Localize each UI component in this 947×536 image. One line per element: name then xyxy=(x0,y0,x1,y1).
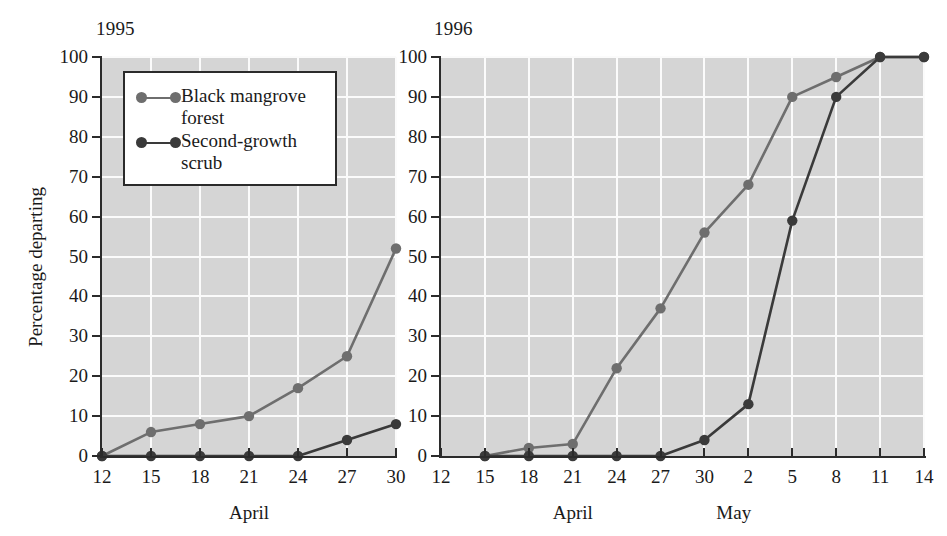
panel-title-1995: 1995 xyxy=(96,18,135,40)
y-tick-label: 90 xyxy=(379,86,427,108)
x-tick-mark xyxy=(616,448,618,457)
chart-panel-1996: 1996 0102030405060708090100 121518212427… xyxy=(418,0,947,536)
x-tick-mark xyxy=(528,448,530,457)
legend-label-second-growth-scrub: Second-growth scrub xyxy=(181,130,331,174)
x-axis-caption-label: April xyxy=(229,502,269,524)
x-tick-label: 15 xyxy=(475,466,494,488)
x-tick-label: 27 xyxy=(338,466,357,488)
x-tick-mark xyxy=(150,448,152,457)
x-axis-caption-label: April xyxy=(553,502,593,524)
data-point-marker xyxy=(743,399,753,409)
x-tick-mark xyxy=(747,448,749,457)
x-tick-label: 18 xyxy=(191,466,210,488)
x-tick-label: 24 xyxy=(607,466,626,488)
y-tick-label: 30 xyxy=(379,325,427,347)
legend-label-black-mangrove-forest: Black mangrove forest xyxy=(181,85,331,129)
y-tick-mark xyxy=(431,256,440,258)
data-point-marker xyxy=(244,411,254,421)
data-point-marker xyxy=(831,92,841,102)
y-tick-mark xyxy=(92,56,101,58)
y-tick-label: 100 xyxy=(379,46,427,68)
y-tick-mark xyxy=(92,216,101,218)
data-point-marker xyxy=(787,215,797,225)
legend-entry-black-mangrove-forest: Black mangrove forest xyxy=(136,85,331,129)
x-tick-mark xyxy=(660,448,662,457)
y-tick-label: 50 xyxy=(42,246,88,268)
x-tick-label: 24 xyxy=(289,466,308,488)
data-point-marker xyxy=(342,435,352,445)
x-tick-mark xyxy=(484,448,486,457)
y-tick-label: 60 xyxy=(42,206,88,228)
x-tick-label: 14 xyxy=(915,466,934,488)
y-tick-mark xyxy=(431,56,440,58)
y-tick-mark xyxy=(92,256,101,258)
data-point-marker xyxy=(611,363,621,373)
x-tick-mark xyxy=(923,448,925,457)
series-line-second-growth-scrub xyxy=(485,57,924,456)
y-tick-mark xyxy=(431,136,440,138)
y-tick-label: 30 xyxy=(42,325,88,347)
x-tick-label: 12 xyxy=(432,466,451,488)
x-tick-label: 18 xyxy=(519,466,538,488)
y-tick-mark xyxy=(431,295,440,297)
y-tick-label: 60 xyxy=(379,206,427,228)
x-axis-line-1996 xyxy=(439,456,926,458)
y-tick-mark xyxy=(92,455,101,457)
y-tick-mark xyxy=(431,96,440,98)
y-tick-mark xyxy=(92,335,101,337)
x-tick-label: 8 xyxy=(831,466,841,488)
series-line-black-mangrove-forest xyxy=(102,249,396,456)
x-tick-label: 27 xyxy=(651,466,670,488)
data-point-marker xyxy=(919,52,929,62)
y-tick-label: 70 xyxy=(379,166,427,188)
y-tick-label: 20 xyxy=(379,365,427,387)
y-tick-mark xyxy=(431,335,440,337)
figure-two-panel-line-chart: 1995 Percentage departing 01020304050607… xyxy=(0,0,947,536)
panel-title-1996: 1996 xyxy=(434,18,473,40)
y-tick-label: 100 xyxy=(42,46,88,68)
y-tick-mark xyxy=(431,415,440,417)
data-point-marker xyxy=(655,303,665,313)
plot-area-1996 xyxy=(441,57,924,456)
data-point-marker xyxy=(195,419,205,429)
x-tick-mark xyxy=(440,448,442,457)
data-point-marker xyxy=(743,179,753,189)
x-tick-label: 30 xyxy=(695,466,714,488)
x-tick-mark xyxy=(346,448,348,457)
data-point-marker xyxy=(875,52,885,62)
x-tick-label: 11 xyxy=(871,466,889,488)
y-tick-label: 40 xyxy=(42,285,88,307)
x-tick-label: 21 xyxy=(563,466,582,488)
data-point-marker xyxy=(699,435,709,445)
legend-marker-second-growth-scrub xyxy=(136,134,181,152)
y-tick-label: 80 xyxy=(42,126,88,148)
y-tick-label: 0 xyxy=(42,445,88,467)
legend: Black mangrove forest Second-growth scru… xyxy=(123,71,337,186)
x-tick-label: 15 xyxy=(142,466,161,488)
x-tick-mark xyxy=(791,448,793,457)
data-point-marker xyxy=(342,351,352,361)
y-tick-label: 0 xyxy=(379,445,427,467)
y-tick-label: 10 xyxy=(42,405,88,427)
x-tick-mark xyxy=(297,448,299,457)
x-tick-label: 12 xyxy=(93,466,112,488)
x-tick-label: 21 xyxy=(240,466,259,488)
y-tick-mark xyxy=(431,176,440,178)
y-tick-mark xyxy=(431,455,440,457)
legend-entry-second-growth-scrub: Second-growth scrub xyxy=(136,130,331,174)
x-tick-mark xyxy=(199,448,201,457)
x-tick-mark xyxy=(248,448,250,457)
series-line-black-mangrove-forest xyxy=(485,57,924,456)
y-tick-label: 70 xyxy=(42,166,88,188)
x-tick-mark xyxy=(572,448,574,457)
data-point-marker xyxy=(293,383,303,393)
x-axis-caption-label: May xyxy=(716,502,751,524)
x-tick-label: 5 xyxy=(788,466,798,488)
y-tick-mark xyxy=(431,375,440,377)
x-tick-label: 30 xyxy=(387,466,406,488)
x-tick-label: 2 xyxy=(744,466,754,488)
legend-marker-black-mangrove-forest xyxy=(136,89,181,107)
y-tick-label: 50 xyxy=(379,246,427,268)
x-tick-mark xyxy=(101,448,103,457)
y-tick-label: 10 xyxy=(379,405,427,427)
